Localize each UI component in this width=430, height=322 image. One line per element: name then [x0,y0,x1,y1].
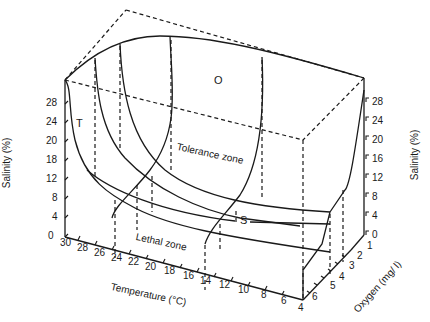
salinity-right-title: Salinity (%) [410,130,420,181]
tick-label: 0 [372,230,378,240]
tick-label: 30 [60,238,71,248]
tick-label: 28 [46,98,57,108]
tick-label: 8 [52,193,58,203]
tick-label: 3 [349,261,355,271]
tick-label: 24 [46,117,57,127]
salinity-left-title: Salinity (%) [2,138,12,189]
tick-label: 0 [48,231,54,241]
curve-label-t: T [76,118,83,129]
tick-label: 12 [372,173,383,183]
tick-label: 18 [46,155,57,165]
curve-label-o: O [214,75,223,86]
tick-label: 5 [330,281,336,291]
salinity-right-ticks [366,98,369,235]
tick-label: 18 [164,266,175,276]
salinity-curve [87,170,330,224]
tick-label: 20 [145,262,156,272]
tick-label: 22 [128,257,139,267]
tick-label: 26 [94,248,105,258]
tick-label: 8 [261,290,267,300]
tick-label: 20 [46,136,57,146]
tick-label: 8 [372,192,378,202]
tick-label: 24 [372,116,383,126]
tolerance-diagram: T O S Tolerance zone Lethal zone 0 4 8 1… [0,0,430,322]
tick-label: 28 [77,243,88,253]
tick-label: 28 [372,97,383,107]
diagram-drawing [0,0,430,322]
tick-label: 6 [281,296,287,306]
tick-label: 14 [200,276,211,286]
tick-label: 24 [111,253,122,263]
tick-label: 16 [183,271,194,281]
tick-label: 12 [219,280,230,290]
tick-label: 4 [52,212,58,222]
tick-label: 10 [238,285,249,295]
tick-label: 16 [372,154,383,164]
tick-label: 1 [367,241,373,251]
tick-label: 2 [357,251,363,261]
curve-label-s: S [240,215,247,226]
box-front-edges [65,78,364,300]
tick-label: 6 [312,292,318,302]
tick-label: 12 [46,174,57,184]
tick-label: 20 [372,135,383,145]
tick-label: 4 [372,211,378,221]
tick-label: 4 [339,272,345,282]
tick-label: 4 [298,303,304,313]
